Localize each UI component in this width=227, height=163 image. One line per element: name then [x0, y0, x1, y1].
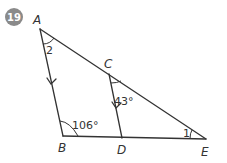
point-label-C: C [104, 57, 113, 71]
point-label-B: B [58, 141, 66, 155]
angle-label-E: 1 [183, 127, 190, 140]
problem-number-badge: 19 [5, 8, 23, 26]
point-label-E: E [201, 145, 209, 159]
angle-arc-E [190, 130, 192, 139]
point-label-A: A [32, 13, 41, 27]
problem-number: 19 [7, 12, 21, 23]
geometry-figure: 19 2 43° 106° 1 A B C D E [0, 0, 227, 163]
angle-label-C: 43° [114, 95, 134, 108]
point-label-D: D [117, 143, 126, 157]
angle-arc-C [111, 81, 121, 83]
angle-label-B: 106° [72, 119, 99, 132]
angle-label-A: 2 [46, 44, 53, 57]
